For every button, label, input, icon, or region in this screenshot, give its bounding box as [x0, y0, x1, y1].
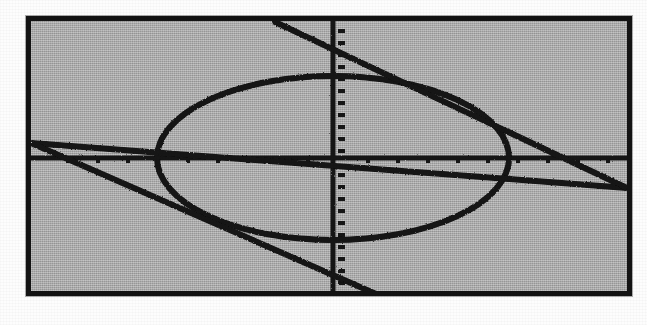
- calculator-bezel: [26, 16, 632, 296]
- axes-group: [31, 21, 627, 291]
- graph-plot: [31, 21, 627, 291]
- calculator-screen: [31, 21, 627, 291]
- scanned-page: Graphing calculator display showing an e…: [0, 0, 647, 325]
